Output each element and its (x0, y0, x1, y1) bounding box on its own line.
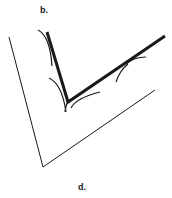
inner-v-line (47, 32, 165, 102)
angle-diagram (0, 0, 172, 198)
tick-arcs (38, 30, 146, 112)
